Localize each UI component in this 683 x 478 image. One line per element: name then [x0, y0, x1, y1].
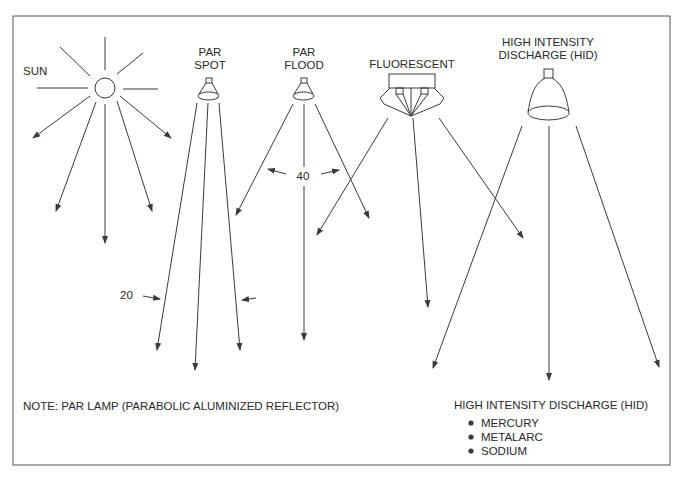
bullet-icon: [468, 448, 473, 453]
spot-angle-label: 20: [120, 289, 133, 301]
par-flood-label-2: FLOOD: [284, 59, 324, 71]
sun-rays: [33, 96, 171, 243]
hid-label-2: DISCHARGE (HID): [498, 49, 597, 61]
par-spot-lamp-icon: [198, 78, 219, 100]
hid-group: HIGH INTENSITY DISCHARGE (HID): [433, 36, 659, 380]
bullet-icon: [468, 420, 473, 425]
par-spot-label-2: SPOT: [194, 59, 225, 71]
par-flood-lamp-icon: [293, 78, 314, 100]
par-flood-label-1: PAR: [293, 46, 316, 58]
fluorescent-fixture-icon: [380, 74, 444, 116]
par-flood-group: PAR FLOOD 40: [236, 46, 369, 340]
par-flood-beams: [236, 104, 369, 340]
sun-label: SUN: [23, 65, 47, 77]
hid-lamp-icon: [528, 69, 569, 120]
par-lamp-note: NOTE: PAR LAMP (PARABOLIC ALUMINIZED REF…: [23, 400, 339, 412]
hid-legend-item: SODIUM: [481, 445, 527, 457]
par-spot-beams: [157, 103, 240, 370]
fluorescent-label: FLUORESCENT: [369, 58, 455, 70]
lighting-diagram: SUN PAR SPOT 20: [0, 0, 683, 478]
sun-icon: [37, 37, 158, 98]
par-spot-group: PAR SPOT 20: [120, 46, 256, 370]
diagram-frame: [13, 16, 670, 465]
sun-group: SUN: [23, 37, 171, 243]
hid-beams: [433, 126, 659, 380]
hid-legend: HIGH INTENSITY DISCHARGE (HID) MERCURY M…: [454, 399, 648, 457]
hid-legend-item: METALARC: [481, 431, 543, 443]
fluorescent-group: FLUORESCENT: [317, 58, 523, 307]
bullet-icon: [468, 434, 473, 439]
hid-legend-title: HIGH INTENSITY DISCHARGE (HID): [454, 399, 648, 411]
flood-angle-label: 40: [297, 170, 310, 182]
hid-label-1: HIGH INTENSITY: [502, 36, 594, 48]
par-spot-label-1: PAR: [199, 46, 222, 58]
fluorescent-beams: [317, 118, 523, 307]
hid-legend-item: MERCURY: [481, 417, 539, 429]
